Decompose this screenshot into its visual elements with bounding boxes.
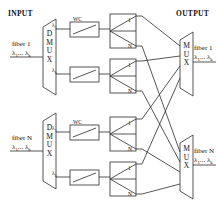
mesh-b4pN-to-muxN — [142, 184, 180, 194]
branch-3-switch-fan-bot — [110, 134, 136, 149]
mux-1-body — [180, 32, 193, 96]
branch-1-switch-fan-bot — [110, 31, 136, 46]
mesh-b3pN-to-muxN — [142, 149, 180, 172]
demux-1-body — [43, 19, 56, 95]
branch-1-switch-fan-top — [110, 16, 136, 31]
branch-1-wc-slash — [73, 25, 96, 34]
branch-2-switch-fan-bot — [110, 76, 136, 91]
mesh-b3p1-to-mux1 — [142, 66, 180, 119]
branch-2-wc-slash — [73, 70, 96, 79]
demux-N-body — [43, 113, 56, 189]
branch-4-switch-fan-bot — [110, 179, 136, 194]
branch-2-switch-fan-top — [110, 61, 136, 76]
mux-N-body — [180, 135, 193, 199]
branch-4-wc-slash — [73, 173, 96, 182]
branch-4-switch-fan-top — [110, 164, 136, 179]
branch-3-wc-slash — [73, 128, 96, 137]
diagram-canvas: INPUT OUTPUT fiber 1 λ1... λk fiber N λ1… — [0, 0, 220, 220]
mesh-b1p1-to-mux1 — [142, 16, 180, 46]
diagram-wiring — [0, 0, 220, 220]
branch-3-switch-fan-top — [110, 119, 136, 134]
mesh-b2p1-to-mux1 — [142, 56, 180, 61]
mesh-b1pN-to-muxN — [142, 46, 180, 152]
